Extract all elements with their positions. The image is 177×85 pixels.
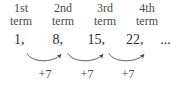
step-label-1: +7: [30, 67, 60, 82]
sequence-value-2: 8,: [39, 32, 78, 48]
term-header-2-word: term: [42, 15, 84, 28]
sequence-ellipsis: ...: [154, 32, 177, 48]
term-header-row: 1st term 2nd term 3rd term 4th term: [0, 2, 177, 30]
step-label-2: +7: [72, 67, 102, 82]
term-header-4: 4th term: [126, 2, 168, 30]
term-header-3-word: term: [84, 15, 126, 28]
term-header-4-word: term: [126, 15, 168, 28]
arrow-term3-to-term4: [109, 54, 144, 61]
sequence-values-row: 1, 8, 15, 22, ...: [0, 32, 177, 50]
term-header-2: 2nd term: [42, 2, 84, 30]
term-header-1-word: term: [0, 15, 42, 28]
step-label-row: +7 +7 +7: [0, 67, 177, 83]
term-header-1: 1st term: [0, 2, 42, 30]
sequence-value-4: 22,: [116, 32, 155, 48]
arrow-term2-to-term3: [68, 54, 103, 61]
step-label-3: +7: [113, 67, 143, 82]
sequence-diagram: 1st term 2nd term 3rd term 4th term 1, 8…: [0, 0, 177, 85]
arrow-term1-to-term2: [27, 54, 61, 61]
term-header-3: 3rd term: [84, 2, 126, 30]
sequence-value-3: 15,: [77, 32, 116, 48]
sequence-value-1: 1,: [0, 32, 39, 48]
